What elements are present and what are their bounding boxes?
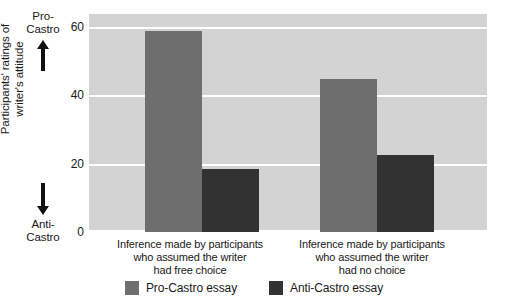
y-tick-label-20: 20: [62, 158, 84, 170]
y-axis-title-line1: Participants' ratings of: [0, 15, 13, 143]
y-axis-title-line2: writer's attitude: [13, 15, 27, 143]
y-tick-label-40: 40: [62, 89, 84, 101]
y-tick-label-60: 60: [62, 21, 84, 33]
legend-label-pro-castro: Pro-Castro essay: [146, 281, 237, 295]
y-axis-annotation: Pro- Castro Participants' ratings of wri…: [0, 0, 86, 240]
x-category-label-group1: Inference made by participants who assum…: [90, 238, 290, 277]
gridline-60: [89, 27, 487, 29]
arrow-down-shaft: [41, 183, 45, 207]
arrow-down-head: [37, 206, 49, 215]
bar-chart: Pro- Castro Participants' ratings of wri…: [0, 0, 508, 306]
x-category-group2-line2: who assumed the writer: [272, 251, 472, 264]
bar-group2-pro-castro: [320, 79, 377, 232]
bar-group1-pro-castro: [145, 31, 202, 232]
bar-group2-anti-castro: [377, 155, 434, 232]
bar-group1-anti-castro: [202, 169, 259, 232]
y-tick-label-0: 0: [62, 226, 84, 238]
arrow-up-shaft: [41, 47, 45, 71]
legend-swatch-pro-castro: [125, 281, 139, 295]
x-category-group2-line3: had no choice: [272, 264, 472, 277]
x-category-group1-line2: who assumed the writer: [90, 251, 290, 264]
legend-label-anti-castro: Anti-Castro essay: [290, 281, 383, 295]
x-category-group1-line1: Inference made by participants: [90, 238, 290, 251]
legend-swatch-anti-castro: [269, 281, 283, 295]
x-category-group1-line3: had free choice: [90, 264, 290, 277]
plot-area: [89, 14, 487, 232]
chart-legend: Pro-Castro essay Anti-Castro essay: [0, 281, 508, 295]
x-category-group2-line1: Inference made by participants: [272, 238, 472, 251]
legend-item-anti-castro: Anti-Castro essay: [269, 281, 383, 295]
legend-item-pro-castro: Pro-Castro essay: [125, 281, 237, 295]
y-axis-title: Participants' ratings of writer's attitu…: [0, 15, 27, 143]
x-category-label-group2: Inference made by participants who assum…: [272, 238, 472, 277]
